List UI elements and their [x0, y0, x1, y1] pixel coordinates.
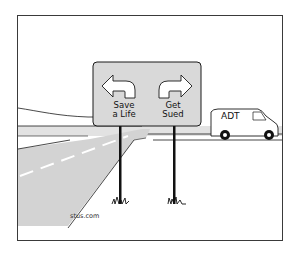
cartoon-scene [18, 16, 283, 241]
grass-tuft-right [168, 197, 186, 204]
hill-line [18, 108, 96, 117]
sign-right-label: Get Sued [156, 101, 190, 119]
sign-post-right [173, 126, 176, 204]
sign-right-line2: Sued [156, 110, 190, 119]
cartoon-frame: Save a Life Get Sued ADT stus.com [17, 15, 283, 241]
sign-left-label: Save a Life [107, 101, 141, 119]
sign-post-left [119, 126, 122, 204]
credit-text: stus.com [70, 212, 99, 220]
van-label: ADT [221, 111, 240, 121]
sign-left-line2: a Life [107, 110, 141, 119]
